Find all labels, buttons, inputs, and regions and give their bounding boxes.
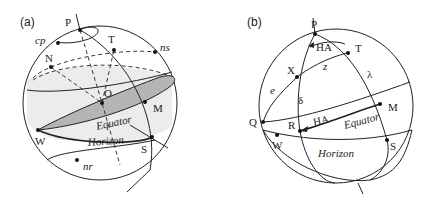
label-T-b: T xyxy=(355,42,362,54)
polar-axis-bottom-b xyxy=(358,183,363,194)
label-Q-b: Q xyxy=(249,116,257,128)
point-S xyxy=(150,135,154,139)
label-z: z xyxy=(322,60,328,72)
point-R-b xyxy=(298,129,302,133)
panel-b-label: (b) xyxy=(247,15,262,29)
label-horizon-b: Horizon xyxy=(317,147,355,159)
label-e: e xyxy=(270,84,275,96)
vertical-circle-b xyxy=(263,53,347,122)
point-nr xyxy=(75,158,79,162)
label-W: W xyxy=(35,135,46,147)
label-ha-eq: HA xyxy=(312,113,330,128)
point-ns xyxy=(153,50,157,54)
label-M-b: M xyxy=(388,101,398,113)
point-cp xyxy=(56,41,60,45)
label-S-b: S xyxy=(390,140,396,152)
point-O xyxy=(100,101,104,105)
label-O: O xyxy=(104,87,112,99)
point-P-b xyxy=(313,32,317,36)
point-T xyxy=(112,48,116,52)
label-lambda: λ xyxy=(367,68,373,80)
label-R-b: R xyxy=(288,119,296,131)
point-W-b xyxy=(275,133,279,137)
polar-axis-top xyxy=(76,14,80,30)
panel-a-label: (a) xyxy=(20,15,35,29)
label-N: N xyxy=(45,52,53,64)
point-M xyxy=(143,100,147,104)
label-P-b: P xyxy=(311,18,317,30)
label-equator-b: Equator xyxy=(341,110,381,131)
label-T: T xyxy=(108,33,115,45)
point-S-b xyxy=(385,138,389,142)
label-X-b: X xyxy=(287,64,295,76)
point-N xyxy=(49,65,53,69)
label-S: S xyxy=(141,143,147,155)
label-delta: δ xyxy=(298,94,303,106)
point-W xyxy=(36,128,40,132)
label-ha-top: HA xyxy=(316,41,332,53)
point-M-b xyxy=(378,102,382,106)
label-cp: cp xyxy=(35,34,46,46)
label-ns: ns xyxy=(160,41,170,53)
label-M: M xyxy=(153,102,163,114)
label-nr: nr xyxy=(83,160,94,172)
point-Q-b xyxy=(261,120,265,124)
label-W-b: W xyxy=(272,139,283,151)
celestial-sphere-diagram: (a) P cp T xyxy=(0,0,435,209)
horizon-front-b xyxy=(263,130,412,139)
point-X-b xyxy=(295,75,299,79)
panel-a: (a) P cp T xyxy=(20,14,177,192)
point-P xyxy=(78,28,82,32)
panel-b: (b) P T X M Q R W xyxy=(247,15,413,194)
point-T-b xyxy=(346,51,350,55)
label-P: P xyxy=(65,16,71,28)
